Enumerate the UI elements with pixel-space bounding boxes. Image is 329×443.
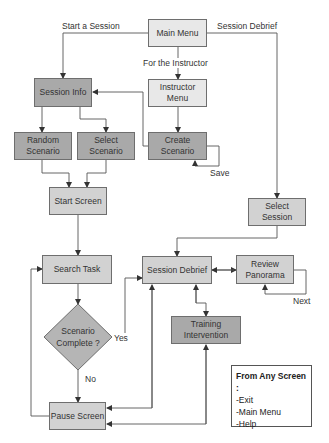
select-scenario-label-line1: Select [94, 135, 118, 146]
search-task-label: Search Task [54, 264, 101, 275]
scenario-complete-label: Scenario Complete ? [48, 325, 108, 349]
select-session-label-line2: Session [262, 212, 292, 223]
edge-label-session-debrief: Session Debrief [217, 21, 277, 31]
edge-label-for-instructor: For the Instructor [143, 58, 208, 68]
main-menu-node: Main Menu [148, 19, 207, 47]
edge-label-no: No [85, 374, 96, 384]
instructor-menu-label-line2: Menu [167, 93, 188, 104]
edge-label-start-session: Start a Session [62, 21, 120, 31]
session-debrief-label: Session Debrief [147, 265, 207, 276]
create-scenario-label-line2: Scenario [161, 146, 195, 157]
create-scenario-label-line1: Create [165, 135, 191, 146]
start-screen-node: Start Screen [49, 187, 107, 215]
training-intervention-label-line2: Intervention [184, 330, 228, 341]
note-item-help: -Help [236, 418, 307, 430]
select-scenario-label-line2: Scenario [89, 146, 123, 157]
training-intervention-label-line1: Training [191, 319, 221, 330]
session-debrief-node: Session Debrief [142, 256, 212, 284]
main-menu-label: Main Menu [156, 28, 198, 39]
edge-label-save: Save [210, 168, 229, 178]
random-scenario-node: Random Scenario [14, 132, 72, 160]
edge-label-next: Next [293, 296, 310, 306]
session-info-label: Session Info [40, 87, 87, 98]
session-info-node: Session Info [34, 78, 92, 107]
pause-screen-label: Pause Screen [51, 411, 104, 422]
random-scenario-label-line1: Random [27, 135, 59, 146]
create-scenario-node: Create Scenario [148, 132, 207, 160]
note-item-exit: -Exit [236, 394, 307, 406]
note-title: From Any Screen : [236, 370, 307, 394]
instructor-menu-label-line1: Instructor [160, 82, 195, 93]
select-scenario-node: Select Scenario [77, 132, 135, 160]
scenario-complete-label-line2: Complete ? [48, 337, 108, 349]
instructor-menu-node: Instructor Menu [148, 79, 207, 107]
edge-label-yes: Yes [114, 333, 128, 343]
review-panorama-label-line1: Review [251, 259, 279, 270]
scenario-complete-label-line1: Scenario [48, 325, 108, 337]
review-panorama-node: Review Panorama [236, 255, 294, 284]
start-screen-label: Start Screen [54, 196, 101, 207]
note-item-main-menu: -Main Menu [236, 406, 307, 418]
review-panorama-label-line2: Panorama [245, 270, 284, 281]
search-task-node: Search Task [42, 255, 112, 284]
select-session-node: Select Session [248, 198, 306, 226]
pause-screen-node: Pause Screen [49, 402, 106, 430]
training-intervention-node: Training Intervention [171, 316, 241, 344]
random-scenario-label-line2: Scenario [26, 146, 60, 157]
select-session-label-line1: Select [265, 201, 289, 212]
global-actions-note: From Any Screen : -Exit -Main Menu -Help [231, 365, 312, 427]
